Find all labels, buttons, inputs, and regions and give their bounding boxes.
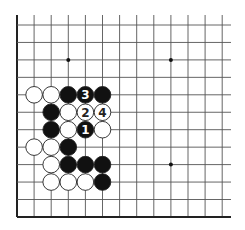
white-stone-icon xyxy=(60,174,77,191)
black-stone-icon xyxy=(77,156,94,173)
numbered-stone-3: 3 xyxy=(77,87,94,104)
numbered-stone-2: 2 xyxy=(77,104,94,121)
black-stone xyxy=(94,174,111,191)
black-stone-icon xyxy=(60,139,77,156)
black-stone-icon xyxy=(94,87,111,104)
white-stone-icon xyxy=(43,156,60,173)
white-stone xyxy=(94,121,111,138)
black-stone xyxy=(43,121,60,138)
white-stone-icon xyxy=(60,104,77,121)
star-point-icon xyxy=(169,58,173,62)
black-stone xyxy=(60,87,77,104)
move-number-label: 4 xyxy=(98,106,106,120)
star-point-icon xyxy=(66,58,70,62)
white-stone xyxy=(60,174,77,191)
black-stone-icon xyxy=(94,156,111,173)
white-stone xyxy=(60,121,77,138)
black-stone xyxy=(60,156,77,173)
move-number-label: 3 xyxy=(81,88,89,102)
go-board: 3241 xyxy=(0,0,245,230)
black-stone xyxy=(60,139,77,156)
white-stone xyxy=(43,87,60,104)
white-stone xyxy=(43,174,60,191)
numbered-stone-4: 4 xyxy=(94,104,111,121)
white-stone-icon xyxy=(43,87,60,104)
white-stone-icon xyxy=(94,121,111,138)
white-stone-icon xyxy=(26,87,43,104)
move-number-label: 2 xyxy=(81,106,89,120)
white-stone xyxy=(60,104,77,121)
black-stone-icon xyxy=(94,174,111,191)
move-number-label: 1 xyxy=(81,123,89,137)
white-stone xyxy=(26,139,43,156)
black-stone-icon xyxy=(60,156,77,173)
black-stone xyxy=(94,156,111,173)
black-stone xyxy=(43,104,60,121)
white-stone xyxy=(26,87,43,104)
white-stone-icon xyxy=(60,121,77,138)
white-stone-icon xyxy=(43,139,60,156)
white-stone-icon xyxy=(77,174,94,191)
white-stone-icon xyxy=(26,139,43,156)
black-stone-icon xyxy=(43,121,60,138)
black-stone-icon xyxy=(60,87,77,104)
numbered-stone-1: 1 xyxy=(77,121,94,138)
black-stone xyxy=(94,87,111,104)
white-stone xyxy=(77,174,94,191)
white-stone-icon xyxy=(43,174,60,191)
star-point-icon xyxy=(169,163,173,167)
black-stone-icon xyxy=(43,104,60,121)
black-stone xyxy=(77,156,94,173)
white-stone xyxy=(43,139,60,156)
stones: 3241 xyxy=(26,87,111,191)
white-stone xyxy=(43,156,60,173)
